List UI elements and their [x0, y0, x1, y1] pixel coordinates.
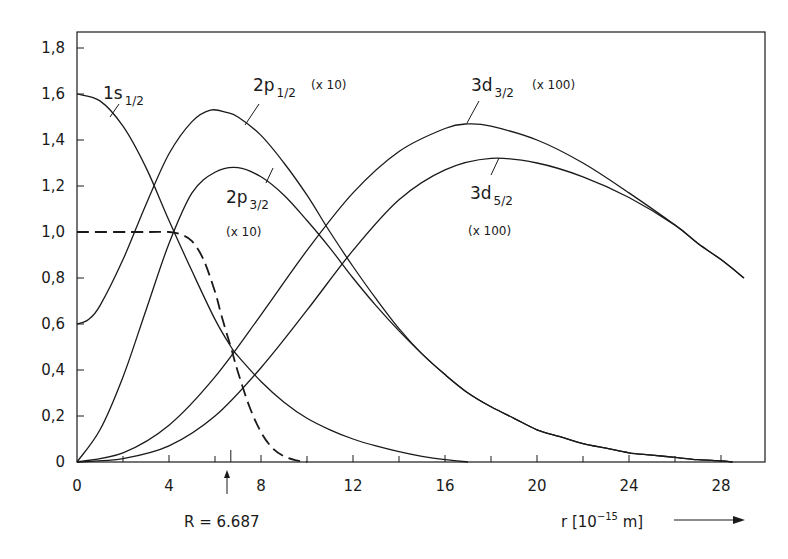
x-tick-label: 20: [527, 477, 546, 495]
y-tick-label: 1,6: [41, 85, 65, 103]
x-axis-title: r [10−15 m]: [561, 511, 643, 531]
radial-wavefunction-chart: 00,20,40,60,81,01,21,41,61,8048121620242…: [0, 0, 788, 559]
y-tick-label: 0,8: [41, 269, 65, 287]
curve-charge-distribution: [77, 232, 307, 462]
x-tick-label: 24: [619, 477, 638, 495]
x-tick-label: 28: [711, 477, 730, 495]
curves: [77, 94, 744, 462]
y-tick-label: 1,2: [41, 177, 65, 195]
factor-2p32: (x 10): [226, 225, 262, 239]
label-3d32: 3d3/2: [471, 75, 514, 100]
label-2p32: 2p3/2: [226, 187, 269, 212]
factor-3d32: (x 100): [532, 78, 575, 92]
y-tick-label: 0,6: [41, 315, 65, 333]
y-tick-label: 0,2: [41, 407, 65, 425]
label-2p12: 2p1/2: [253, 75, 296, 100]
factor-3d52: (x 100): [468, 224, 511, 238]
x-tick-label: 16: [435, 477, 454, 495]
label-leaders: [110, 101, 499, 183]
y-tick-label: 1,0: [41, 223, 65, 241]
y-tick-label: 0,4: [41, 361, 65, 379]
label-1s12: 1s1/2: [103, 83, 144, 108]
label-3d52: 3d5/2: [470, 183, 513, 208]
x-tick-label: 8: [256, 477, 266, 495]
x-tick-label: 12: [343, 477, 362, 495]
x-tick-label: 0: [72, 477, 82, 495]
curve-3d3-2: [77, 124, 744, 462]
radius-marker: [224, 470, 230, 494]
curve-2p1-2: [77, 110, 733, 462]
factor-2p12: (x 10): [311, 78, 347, 92]
y-tick-label: 0: [55, 453, 65, 471]
axis-ticks: 00,20,40,60,81,01,21,41,61,8048121620242…: [41, 39, 730, 495]
curve-2p3-2: [77, 167, 733, 462]
radius-label: R = 6.687: [184, 513, 259, 531]
y-tick-label: 1,4: [41, 131, 65, 149]
x-tick-label: 4: [164, 477, 174, 495]
x-axis-direction-arrow: [674, 516, 745, 524]
y-tick-label: 1,8: [41, 39, 65, 57]
